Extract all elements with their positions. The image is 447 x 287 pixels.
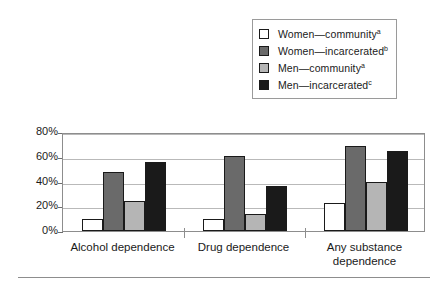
legend-item: Men—incarceratedc <box>259 76 388 93</box>
bar-group <box>324 134 408 231</box>
bar <box>224 156 245 231</box>
chart-figure: Women—communitya Women—incarceratedb Men… <box>0 0 447 287</box>
chart-legend: Women—communitya Women—incarceratedb Men… <box>252 19 397 99</box>
legend-label-men-incarcerated: Men—incarceratedc <box>278 79 372 91</box>
legend-swatch-women-incarcerated <box>259 46 269 56</box>
legend-label-women-incarcerated: Women—incarceratedb <box>278 45 388 57</box>
x-axis-separator <box>184 228 185 238</box>
bar <box>145 162 166 231</box>
y-tick-mark <box>58 232 63 233</box>
bar <box>82 219 103 231</box>
y-tick-label: 0% <box>18 224 58 236</box>
x-label-drug-dependence: Drug dependence <box>183 240 304 254</box>
bar <box>387 151 408 231</box>
plot-area <box>62 133 425 232</box>
x-label-any-substance-dependence: Any substance dependence <box>304 240 425 268</box>
bar-group <box>82 134 166 231</box>
legend-item: Women—communitya <box>259 25 388 42</box>
y-tick-label: 40% <box>18 175 58 187</box>
bar <box>366 182 387 232</box>
footer-divider <box>18 277 430 278</box>
legend-item: Men—communitya <box>259 59 388 76</box>
bar <box>245 214 266 231</box>
legend-swatch-men-incarcerated <box>259 80 269 90</box>
bar <box>324 203 345 231</box>
y-axis-ticks: 0%20%40%60%80% <box>14 133 58 232</box>
bar <box>203 219 224 231</box>
x-label-alcohol-dependence: Alcohol dependence <box>62 240 183 254</box>
legend-label-men-community: Men—communitya <box>278 62 365 74</box>
legend-swatch-women-community <box>259 29 269 39</box>
bar <box>345 146 366 231</box>
bar <box>266 186 287 231</box>
bar <box>103 172 124 231</box>
bar <box>124 201 145 231</box>
legend-item: Women—incarceratedb <box>259 42 388 59</box>
bar-group <box>203 134 287 231</box>
x-axis-separator <box>305 228 306 238</box>
y-tick-label: 60% <box>18 150 58 162</box>
y-tick-label: 80% <box>18 125 58 137</box>
y-tick-label: 20% <box>18 199 58 211</box>
legend-label-women-community: Women—communitya <box>278 28 381 40</box>
legend-swatch-men-community <box>259 63 269 73</box>
